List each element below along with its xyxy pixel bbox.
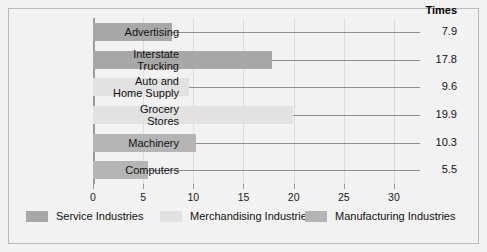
- chart-figure: 051015202530 AdvertisingInterstate Truck…: [0, 0, 487, 252]
- chart-legend: Service IndustriesMerchandising Industri…: [10, 208, 477, 228]
- gridline-10: [193, 18, 194, 184]
- x-tick-label: 30: [388, 191, 400, 203]
- legend-item[interactable]: Service Industries: [26, 208, 143, 224]
- tick-mark-5: [143, 184, 144, 189]
- gridline-25: [344, 18, 345, 184]
- tick-mark-15: [243, 184, 244, 189]
- gridline-15: [243, 18, 244, 184]
- category-label: Grocery Stores: [79, 103, 179, 128]
- tick-mark-0: [93, 184, 94, 189]
- value-leader-line: [189, 87, 420, 88]
- category-label: Auto and Home Supply: [79, 75, 179, 100]
- value-leader-line: [196, 143, 420, 144]
- value-leader-line: [272, 60, 420, 61]
- category-label: Computers: [79, 164, 179, 177]
- value-label: 5.5: [419, 163, 457, 175]
- value-label: 7.9: [419, 25, 457, 37]
- x-tick-label: 0: [90, 191, 96, 203]
- x-tick-label: 10: [187, 191, 199, 203]
- value-label: 19.9: [419, 108, 457, 120]
- category-labels: AdvertisingInterstate TruckingAuto and H…: [79, 18, 179, 184]
- legend-item[interactable]: Manufacturing Industries: [305, 208, 455, 224]
- gridline-20: [294, 18, 295, 184]
- x-tick-label: 25: [338, 191, 350, 203]
- gridline-30: [394, 18, 395, 184]
- tick-mark-25: [344, 184, 345, 189]
- times-header: Times: [419, 4, 457, 16]
- tick-mark-30: [394, 184, 395, 189]
- x-tick-label: 15: [238, 191, 250, 203]
- legend-label: Service Industries: [56, 210, 143, 222]
- legend-swatch: [305, 211, 327, 222]
- value-labels-column: Times 7.917.89.619.910.35.5: [419, 18, 471, 198]
- category-label: Advertising: [79, 26, 179, 39]
- plot-area: 051015202530 AdvertisingInterstate Truck…: [93, 18, 404, 184]
- x-tick-label: 20: [288, 191, 300, 203]
- category-label: Interstate Trucking: [79, 48, 179, 73]
- legend-item[interactable]: Merchandising Industries: [160, 208, 312, 224]
- value-leader-line: [172, 32, 420, 33]
- legend-label: Manufacturing Industries: [335, 210, 455, 222]
- x-tick-label: 5: [140, 191, 146, 203]
- tick-mark-20: [294, 184, 295, 189]
- value-leader-line: [148, 170, 420, 171]
- value-label: 17.8: [419, 53, 457, 65]
- tick-mark-10: [193, 184, 194, 189]
- value-label: 9.6: [419, 80, 457, 92]
- legend-swatch: [26, 211, 48, 222]
- category-label: Machinery: [79, 137, 179, 150]
- value-leader-line: [293, 115, 420, 116]
- value-label: 10.3: [419, 136, 457, 148]
- legend-label: Merchandising Industries: [190, 210, 312, 222]
- legend-swatch: [160, 211, 182, 222]
